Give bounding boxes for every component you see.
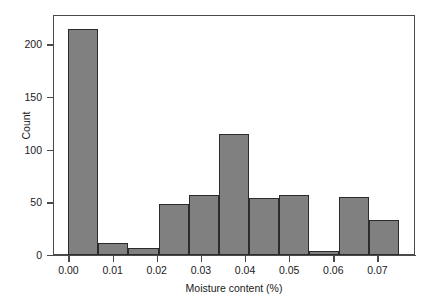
x-axis-tick-label: 0.06 xyxy=(310,265,356,276)
y-axis-tick-label: 200 xyxy=(0,39,42,50)
x-axis-tick xyxy=(157,256,158,262)
x-axis-tick-label: 0.07 xyxy=(354,265,400,276)
x-axis-tick xyxy=(68,256,69,262)
y-axis-tick xyxy=(47,44,53,45)
x-axis-tick-label: 0.02 xyxy=(134,265,180,276)
x-axis-tick xyxy=(113,256,114,262)
x-axis-tick-label: 0.00 xyxy=(45,265,91,276)
x-axis-tick-label: 0.04 xyxy=(222,265,268,276)
x-axis-line xyxy=(53,255,416,256)
y-axis-tick-label: 50 xyxy=(0,197,42,208)
y-axis-tick xyxy=(47,97,53,98)
y-axis-tick xyxy=(47,150,53,151)
x-axis-tick xyxy=(201,256,202,262)
x-axis-title: Moisture content (%) xyxy=(53,283,415,294)
y-axis-title: Count xyxy=(21,81,32,171)
x-axis-tick xyxy=(377,256,378,262)
y-axis-tick xyxy=(47,202,53,203)
histogram-figure: 050100150200 Count 0.000.010.020.030.040… xyxy=(0,0,436,308)
plot-area-frame xyxy=(53,15,415,255)
x-axis-tick xyxy=(289,256,290,262)
x-axis-tick xyxy=(245,256,246,262)
y-axis-tick-label: 0 xyxy=(0,250,42,261)
x-axis-tick xyxy=(333,256,334,262)
x-axis-tick-label: 0.03 xyxy=(178,265,224,276)
y-axis-line xyxy=(53,15,54,256)
x-axis-tick-label: 0.05 xyxy=(266,265,312,276)
x-axis-tick-label: 0.01 xyxy=(90,265,136,276)
